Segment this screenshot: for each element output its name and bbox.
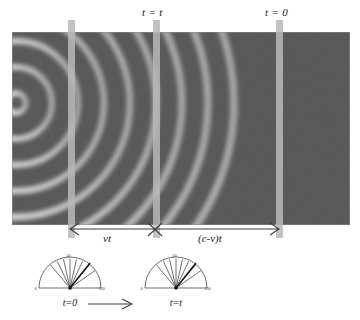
- gauge-t-zero-svg: 0 50 100: [34, 252, 106, 294]
- gauge-pivot: [174, 286, 178, 290]
- gauge-max-label: 100: [204, 286, 212, 291]
- gauge-t-t-caption: t=t: [140, 297, 212, 308]
- wavefront-svg: [12, 32, 350, 225]
- gauge-t-t: 0 50 100: [140, 252, 212, 294]
- dimension-label-c-minus-v-t: (c-v)t: [198, 232, 222, 244]
- top-label-t-equals-t: t = t: [142, 6, 163, 18]
- figure-canvas: t = t t = 0 vt (c-v)t: [0, 0, 360, 320]
- gauge-mid-label: 50: [66, 253, 71, 258]
- marker-bar-t-equals-0: [276, 20, 283, 238]
- dimension-arrows-svg: [0, 218, 360, 248]
- gauge-min-label: 0: [141, 286, 144, 291]
- wavefront-panel: [12, 32, 350, 225]
- marker-bar-t-equals-t: [153, 20, 160, 238]
- gauge-mid-label: 50: [172, 253, 177, 258]
- time-progression-arrow-svg: [86, 296, 136, 312]
- dimension-arrow-layer: vt (c-v)t: [0, 218, 360, 248]
- gauge-t-zero: 0 50 100: [34, 252, 106, 294]
- marker-bar-vt-left: [68, 20, 75, 238]
- dimension-label-vt: vt: [103, 232, 111, 244]
- gauge-min-label: 0: [35, 286, 38, 291]
- top-label-t-equals-0: t = 0: [265, 6, 288, 18]
- time-progression-arrow: [86, 296, 136, 316]
- gauge-t-t-svg: 0 50 100: [140, 252, 212, 294]
- gauge-max-label: 100: [98, 286, 106, 291]
- gauge-pivot: [68, 286, 72, 290]
